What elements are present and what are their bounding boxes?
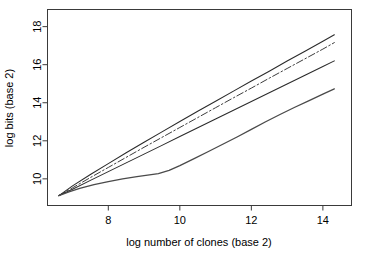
x-tick-label: 14 — [317, 214, 329, 226]
y-tick-label: 18 — [32, 21, 44, 33]
y-tick-label: 14 — [32, 97, 44, 109]
y-tick-label: 12 — [32, 135, 44, 147]
chart-figure: 8101214 1012141618 log number of clones … — [0, 0, 371, 266]
x-tick-label: 8 — [105, 214, 111, 226]
y-axis-title: log bits (base 2) — [3, 69, 15, 147]
x-tick-label: 10 — [174, 214, 186, 226]
x-tick-label: 12 — [245, 214, 257, 226]
chart-background — [0, 0, 371, 266]
x-axis-title: log number of clones (base 2) — [126, 236, 272, 248]
y-tick-label: 16 — [32, 59, 44, 71]
y-tick-label: 10 — [32, 173, 44, 185]
line-chart-svg: 8101214 1012141618 log number of clones … — [0, 0, 371, 266]
